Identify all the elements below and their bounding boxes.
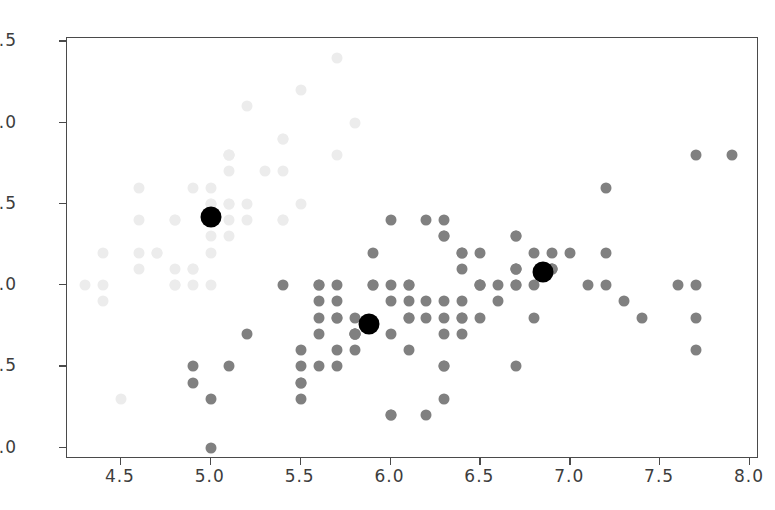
x-tick-label: 5.5: [270, 466, 330, 486]
data-point: [187, 377, 198, 388]
data-point: [439, 312, 450, 323]
data-point: [439, 328, 450, 339]
data-point: [691, 150, 702, 161]
data-point: [385, 296, 396, 307]
axes-frame: [66, 37, 758, 458]
y-tick-mark: [59, 40, 66, 41]
data-point: [385, 215, 396, 226]
data-point: [97, 280, 108, 291]
data-point: [313, 328, 324, 339]
y-tick-mark: [59, 365, 66, 366]
y-tick-label: 3.0: [0, 274, 17, 294]
data-point: [205, 280, 216, 291]
y-tick-label: 4.0: [0, 112, 17, 132]
data-point: [421, 215, 432, 226]
data-point: [277, 133, 288, 144]
data-point: [367, 247, 378, 258]
data-point: [439, 231, 450, 242]
data-point: [421, 410, 432, 421]
data-point: [349, 328, 360, 339]
data-point: [241, 328, 252, 339]
y-tick-mark: [59, 284, 66, 285]
data-point: [187, 182, 198, 193]
data-point: [187, 361, 198, 372]
data-point: [583, 280, 594, 291]
data-point: [331, 52, 342, 63]
data-point: [205, 247, 216, 258]
y-tick-mark: [59, 203, 66, 204]
x-tick-label: 7.0: [539, 466, 599, 486]
data-point: [727, 150, 738, 161]
data-point: [439, 393, 450, 404]
x-tick-mark: [390, 458, 391, 465]
data-point: [295, 198, 306, 209]
data-point: [331, 296, 342, 307]
y-tick-mark: [59, 122, 66, 123]
data-point: [691, 280, 702, 291]
y-tick-label: 2.0: [0, 437, 17, 457]
data-point: [259, 166, 270, 177]
y-tick-label: 3.5: [0, 193, 17, 213]
data-point: [403, 280, 414, 291]
data-point: [205, 442, 216, 453]
data-point: [241, 101, 252, 112]
data-point: [223, 215, 234, 226]
data-point: [97, 296, 108, 307]
y-tick-label: 2.5: [0, 355, 17, 375]
data-point: [331, 345, 342, 356]
x-tick-label: 6.5: [449, 466, 509, 486]
data-point: [331, 150, 342, 161]
x-tick-label: 4.5: [90, 466, 150, 486]
data-point: [457, 312, 468, 323]
data-point: [133, 247, 144, 258]
data-point: [223, 231, 234, 242]
data-point: [187, 263, 198, 274]
data-point: [295, 393, 306, 404]
data-point: [601, 280, 612, 291]
data-point: [295, 377, 306, 388]
cluster-centroid: [533, 262, 554, 283]
data-point: [169, 263, 180, 274]
data-point: [79, 280, 90, 291]
data-point: [565, 247, 576, 258]
data-point: [223, 361, 234, 372]
x-tick-mark: [749, 458, 750, 465]
data-point: [313, 312, 324, 323]
data-point: [511, 231, 522, 242]
data-point: [169, 215, 180, 226]
x-tick-mark: [569, 458, 570, 465]
data-point: [691, 312, 702, 323]
data-point: [205, 182, 216, 193]
x-tick-mark: [659, 458, 660, 465]
data-point: [421, 296, 432, 307]
data-point: [241, 215, 252, 226]
data-point: [151, 247, 162, 258]
data-point: [169, 280, 180, 291]
data-point: [367, 280, 378, 291]
data-point: [241, 198, 252, 209]
x-tick-mark: [300, 458, 301, 465]
data-point: [475, 247, 486, 258]
data-point: [385, 280, 396, 291]
x-tick-label: 5.0: [180, 466, 240, 486]
data-point: [457, 328, 468, 339]
data-point: [97, 247, 108, 258]
data-point: [547, 247, 558, 258]
data-point: [331, 312, 342, 323]
data-point: [511, 280, 522, 291]
data-point: [403, 296, 414, 307]
plot-area: [67, 38, 757, 457]
data-point: [475, 312, 486, 323]
data-point: [385, 328, 396, 339]
data-point: [457, 296, 468, 307]
data-point: [313, 361, 324, 372]
data-point: [691, 345, 702, 356]
data-point: [601, 247, 612, 258]
data-point: [673, 280, 684, 291]
data-point: [277, 166, 288, 177]
data-point: [223, 150, 234, 161]
data-point: [439, 361, 450, 372]
data-point: [421, 312, 432, 323]
data-point: [439, 215, 450, 226]
data-point: [511, 263, 522, 274]
